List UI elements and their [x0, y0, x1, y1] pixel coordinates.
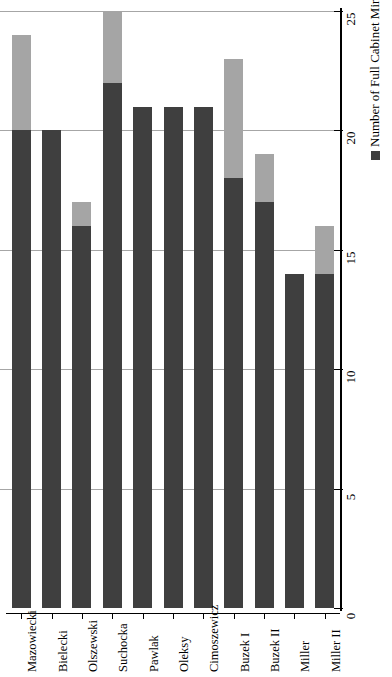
value-axis-tick-label: 0: [344, 613, 357, 620]
bar-group[interactable]: [164, 11, 183, 608]
category-axis-tick: [325, 613, 326, 619]
category-label-olszewski: Olszewski: [87, 620, 100, 672]
bar-segment-full-cabinet-ministers[interactable]: [285, 274, 304, 608]
category-axis-tick: [82, 613, 83, 619]
bar-segment-full-cabinet-ministers[interactable]: [194, 107, 213, 608]
value-axis-tick-label: 25: [344, 13, 357, 26]
bar-segment-full-cabinet-ministers[interactable]: [164, 107, 183, 608]
bar-segment-full-cabinet-ministers[interactable]: [315, 274, 334, 608]
category-label-pawlak: Pawlak: [148, 635, 161, 672]
value-axis-tick: [334, 250, 343, 251]
bar-segment-ministers-without-portfolio[interactable]: [12, 35, 31, 131]
bar-segment-ministers-without-portfolio[interactable]: [103, 11, 122, 83]
category-label-suchocka: Suchocka: [117, 623, 130, 672]
category-axis-tick: [143, 613, 144, 619]
bar-group[interactable]: [133, 11, 152, 608]
legend-swatch-dark: [371, 151, 380, 160]
bar-segment-ministers-without-portfolio[interactable]: [224, 59, 243, 178]
bar-segment-ministers-without-portfolio[interactable]: [255, 154, 274, 202]
value-axis-tick: [334, 489, 343, 490]
bar-segment-full-cabinet-ministers[interactable]: [42, 130, 61, 608]
category-axis-tick: [173, 613, 174, 619]
chart-legend: Number of Full Cabinet Ministers Number …: [368, 0, 382, 160]
legend-item-full-cabinet-ministers: Number of Full Cabinet Ministers: [368, 0, 382, 160]
bar-group[interactable]: [285, 11, 304, 608]
category-axis-tick: [203, 613, 204, 619]
bar-segment-ministers-without-portfolio[interactable]: [72, 202, 91, 226]
category-axis-tick: [112, 613, 113, 619]
category-label-bielecki: Bielecki: [57, 630, 70, 672]
category-label-mazowiecki: Mazowiecki: [26, 610, 39, 672]
category-label-cimoszewicz: Cimoszewicz: [208, 605, 221, 672]
bar-segment-full-cabinet-ministers[interactable]: [72, 226, 91, 608]
category-axis-tick: [294, 613, 295, 619]
category-label-miller: Miller: [299, 641, 312, 672]
value-axis-tick-label: 5: [344, 493, 357, 500]
value-axis-tick: [334, 11, 343, 12]
bar-group[interactable]: [42, 11, 61, 608]
bar-segment-full-cabinet-ministers[interactable]: [255, 202, 274, 608]
bar-segment-full-cabinet-ministers[interactable]: [133, 107, 152, 608]
category-label-buzek-i: Buzek I: [239, 633, 252, 672]
bar-group[interactable]: [72, 11, 91, 608]
bar-group[interactable]: [12, 11, 31, 608]
bar-group[interactable]: [224, 11, 243, 608]
bar-segment-full-cabinet-ministers[interactable]: [224, 178, 243, 608]
value-axis-tick-label: 20: [344, 132, 357, 145]
value-axis-line: [340, 8, 342, 611]
value-axis-tick: [334, 130, 343, 131]
chart-figure: Number of Full Cabinet Ministers Number …: [0, 0, 392, 677]
category-axis-tick: [52, 613, 53, 619]
category-axis-tick: [234, 613, 235, 619]
bar-segment-full-cabinet-ministers[interactable]: [103, 83, 122, 608]
category-label-miller-ii: Miller II: [330, 629, 343, 672]
bar-group[interactable]: [103, 11, 122, 608]
value-axis-tick-label: 10: [344, 371, 357, 384]
bar-group[interactable]: [255, 11, 274, 608]
bar-segment-full-cabinet-ministers[interactable]: [12, 130, 31, 608]
bar-segment-ministers-without-portfolio[interactable]: [315, 226, 334, 274]
value-axis-tick-label: 15: [344, 251, 357, 264]
bar-group[interactable]: [315, 11, 334, 608]
value-axis-tick: [334, 608, 343, 609]
category-axis-tick: [264, 613, 265, 619]
category-axis-tick: [21, 613, 22, 619]
category-label-oleksy: Oleksy: [178, 637, 191, 672]
bar-group[interactable]: [194, 11, 213, 608]
value-axis-tick: [334, 369, 343, 370]
category-label-buzek-ii: Buzek II: [269, 629, 282, 672]
legend-label-full-cabinet-ministers: Number of Full Cabinet Ministers: [368, 0, 382, 147]
